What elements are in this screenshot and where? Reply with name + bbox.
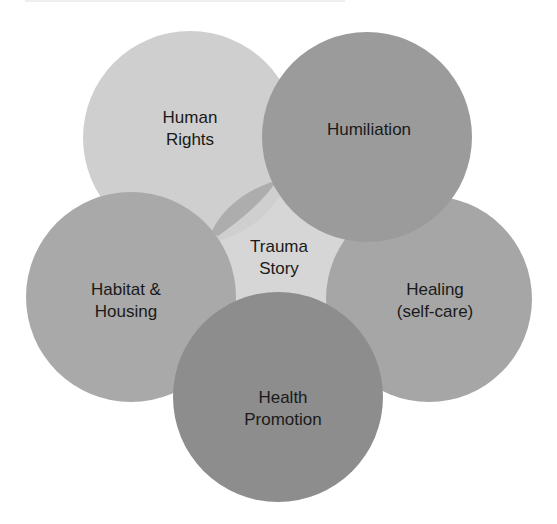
label-line: Rights: [163, 129, 218, 151]
label-line: Humiliation: [327, 119, 411, 141]
label-line: Story: [250, 258, 308, 280]
label-line: Promotion: [244, 409, 321, 431]
label-line: Housing: [91, 301, 161, 323]
label-line: Habitat &: [91, 279, 161, 301]
label-line: Trauma: [250, 236, 308, 258]
label-line: Human: [163, 107, 218, 129]
label-human-rights: Human Rights: [163, 107, 218, 151]
label-habitat-housing: Habitat & Housing: [91, 279, 161, 323]
label-trauma-story: Trauma Story: [250, 236, 308, 280]
label-line: Health: [244, 387, 321, 409]
label-line: Healing: [397, 279, 474, 301]
label-line: (self-care): [397, 301, 474, 323]
label-healing: Healing (self-care): [397, 279, 474, 323]
label-humiliation: Humiliation: [327, 119, 411, 141]
label-health-promotion: Health Promotion: [244, 387, 321, 431]
